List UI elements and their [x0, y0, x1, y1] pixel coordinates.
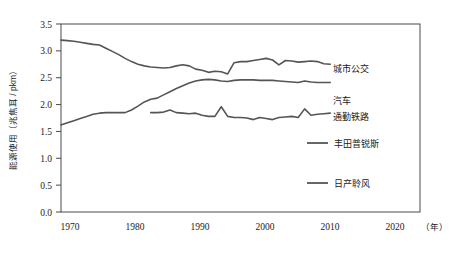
x-tick-1970: 1970	[61, 222, 80, 232]
x-tick-1990: 1990	[191, 222, 210, 232]
y-tick-3.5: 3.5	[40, 20, 52, 30]
y-tick-3.0: 3.0	[40, 46, 52, 56]
x-tick-2000: 2000	[256, 222, 275, 232]
energy-use-line-chart: 3.5 3.0 2.5 2.0 1.5 1.0 0.5 0.0 能源使用（兆焦耳…	[0, 0, 454, 261]
y-tick-1.0: 1.0	[40, 154, 52, 164]
y-tick-0.0: 0.0	[40, 208, 52, 218]
x-tick-2010: 2010	[321, 222, 340, 232]
y-tick-1.5: 1.5	[40, 127, 52, 137]
series-label-commuter-rail: 通勤铁路	[333, 111, 369, 122]
y-tick-2.0: 2.0	[40, 100, 52, 110]
y-axis: 3.5 3.0 2.5 2.0 1.5 1.0 0.5 0.0	[40, 20, 61, 218]
legend-label-leaf: 日产聆风	[334, 178, 370, 189]
y-axis-title: 能源使用（兆焦耳 / pkm）	[8, 66, 18, 170]
x-tick-2020: 2020	[386, 222, 405, 232]
y-tick-0.5: 0.5	[40, 181, 52, 191]
series-label-car: 汽车	[333, 95, 351, 106]
series-label-urban-bus: 城市公交	[333, 63, 369, 74]
x-axis-title: （年）	[421, 222, 448, 232]
x-tick-1980: 1980	[126, 222, 145, 232]
x-axis: 1970 1980 1990 2000 2010 2020 （年）	[61, 222, 448, 232]
legend-label-prius: 丰田普锐斯	[334, 138, 379, 149]
y-tick-2.5: 2.5	[40, 73, 52, 83]
